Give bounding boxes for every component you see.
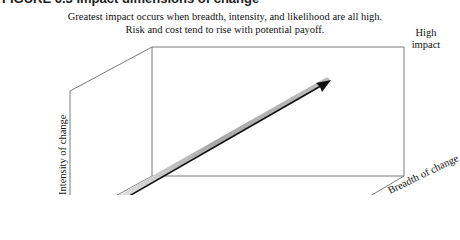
arrow-shadow xyxy=(106,80,327,195)
axis-label-intensity: Intensity of change xyxy=(57,115,68,195)
side-face xyxy=(70,47,404,195)
